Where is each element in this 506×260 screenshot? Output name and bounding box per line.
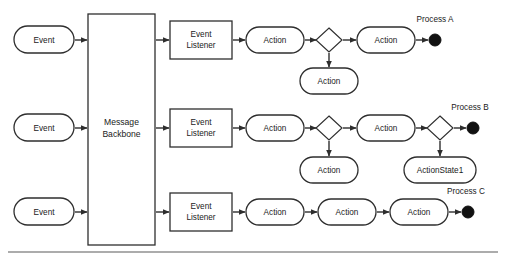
lane-b-branch-action-2[interactable]: ActionState1 bbox=[404, 157, 476, 183]
lane-b-process-label: Process B bbox=[451, 103, 489, 112]
lane-c-terminal-dot[interactable] bbox=[462, 206, 474, 218]
event-node-1[interactable]: Event bbox=[14, 26, 74, 53]
event-node-3[interactable]: Event bbox=[14, 198, 74, 225]
message-backbone[interactable]: Message Backbone bbox=[88, 14, 155, 245]
lane-c-process-label: Process C bbox=[447, 187, 485, 196]
lane-b-action-1-label: Action bbox=[264, 124, 287, 133]
lane-a-process-label: Process A bbox=[417, 15, 454, 24]
lane-c-action-3-label: Action bbox=[408, 208, 431, 217]
lane-a-action-1-label: Action bbox=[264, 36, 287, 45]
lane-b-branch-action-1-label: Action bbox=[318, 166, 341, 175]
event-listener-1[interactable]: Event Listener bbox=[170, 21, 232, 59]
event-listener-1-label-line2: Listener bbox=[186, 41, 215, 50]
message-backbone-label-line1: Message bbox=[104, 117, 139, 127]
event-listener-2-label-line2: Listener bbox=[186, 129, 215, 138]
event-node-2-label: Event bbox=[34, 124, 56, 133]
lane-a-action-2-label: Action bbox=[375, 36, 398, 45]
lane-a-branch-action-1-label: Action bbox=[318, 77, 341, 86]
lane-c-action-2-label: Action bbox=[336, 208, 359, 217]
lane-c-action-1-label: Action bbox=[264, 208, 287, 217]
event-node-2[interactable]: Event bbox=[14, 114, 74, 141]
event-listener-2[interactable]: Event Listener bbox=[170, 109, 232, 147]
lane-b-terminal-dot[interactable] bbox=[467, 122, 479, 134]
lane-b-branch-action-2-label: ActionState1 bbox=[417, 166, 464, 175]
lane-a-terminal-dot[interactable] bbox=[429, 34, 441, 46]
message-backbone-label-line2: Backbone bbox=[102, 129, 140, 139]
lane-a-decision-1[interactable] bbox=[316, 28, 342, 52]
activity-diagram: Event Event Event Message Backbone Event… bbox=[0, 0, 506, 260]
lane-b-decision-2[interactable] bbox=[427, 116, 453, 140]
event-listener-1-label-line1: Event bbox=[191, 30, 213, 39]
lane-b-decision-1[interactable] bbox=[316, 116, 342, 140]
lane-c-action-2[interactable]: Action bbox=[318, 199, 376, 225]
event-listener-3[interactable]: Event Listener bbox=[170, 193, 232, 231]
lane-b-action-2-label: Action bbox=[375, 124, 398, 133]
event-listener-3-label-line1: Event bbox=[191, 202, 213, 211]
lane-b-branch-action-1[interactable]: Action bbox=[300, 157, 358, 183]
lane-a-action-1[interactable]: Action bbox=[246, 27, 304, 53]
lane-c-action-1[interactable]: Action bbox=[246, 199, 304, 225]
lane-a-branch-action-1[interactable]: Action bbox=[300, 68, 358, 94]
event-listener-2-label-line1: Event bbox=[191, 118, 213, 127]
diagram-canvas: Event Event Event Message Backbone Event… bbox=[0, 0, 506, 260]
lane-b-action-1[interactable]: Action bbox=[246, 115, 304, 141]
lane-a-action-2[interactable]: Action bbox=[357, 27, 415, 53]
lane-b-action-2[interactable]: Action bbox=[357, 115, 415, 141]
event-listener-3-label-line2: Listener bbox=[186, 213, 215, 222]
lane-c-action-3[interactable]: Action bbox=[390, 199, 448, 225]
event-node-1-label: Event bbox=[34, 36, 56, 45]
event-node-3-label: Event bbox=[34, 208, 56, 217]
